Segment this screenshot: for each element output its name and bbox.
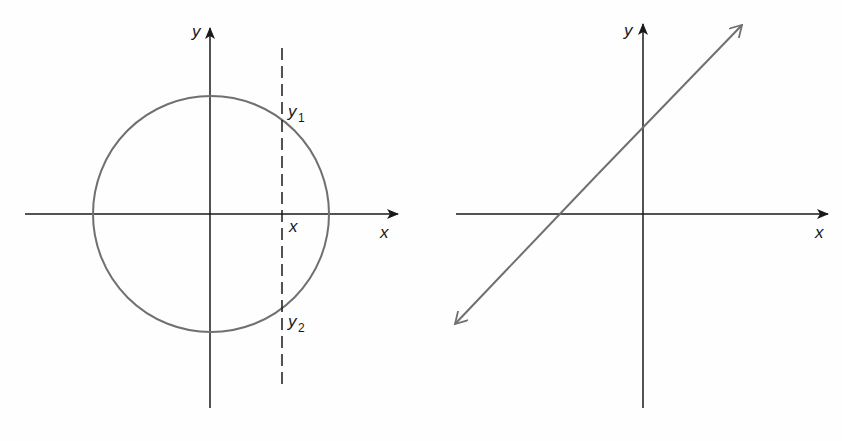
svg-text:y: y — [287, 312, 298, 331]
x-intercept-label: x — [288, 217, 298, 236]
right-figure: y x — [455, 21, 828, 408]
svg-text:2: 2 — [298, 321, 305, 335]
svg-text:y: y — [287, 102, 298, 121]
left-figure: y x x y 1 y 2 — [25, 22, 398, 408]
diagram-canvas: y x x y 1 y 2 y x — [0, 0, 842, 441]
right-y-axis-label: y — [623, 21, 634, 40]
line-arrow-up — [598, 25, 742, 174]
line-arrow-down — [455, 174, 598, 324]
svg-text:1: 1 — [298, 111, 305, 125]
left-x-axis-label: x — [379, 223, 389, 242]
y2-label: y 2 — [287, 312, 305, 335]
right-x-axis-label: x — [814, 223, 824, 242]
y1-label: y 1 — [287, 102, 305, 125]
left-y-axis-label: y — [191, 22, 202, 41]
